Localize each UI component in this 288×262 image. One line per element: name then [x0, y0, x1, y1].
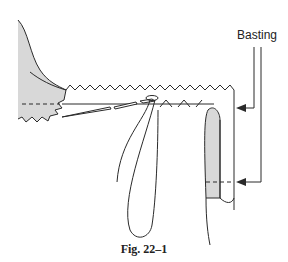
basting-arrow-upper [244, 47, 254, 108]
basting-label: Basting [237, 28, 277, 42]
thread-loop [117, 100, 158, 237]
basting-arrow-lower [244, 47, 261, 182]
figure-canvas: Basting Fig. 22–1 [0, 0, 288, 262]
needle [62, 107, 111, 117]
figure-caption: Fig. 22–1 [0, 242, 288, 257]
folded-hem-right [205, 108, 220, 198]
fabric-left-shaded [18, 20, 66, 122]
